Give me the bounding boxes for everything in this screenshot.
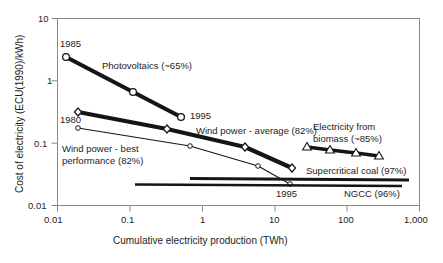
annotation-1985: 1985 (60, 38, 81, 49)
x-tick-label-0.1: 0.1 (121, 214, 134, 225)
label-wind-average: Wind power - average (82%) (196, 125, 317, 137)
chart-figure: 10 1 0.1 0.01 0.01 0.1 1 10 100 1,000 Cu… (0, 0, 443, 263)
biomass-line (307, 147, 379, 156)
series-ngcc (135, 185, 402, 187)
y-axis-ticks (52, 19, 58, 206)
x-tick-label-100: 100 (338, 214, 354, 225)
label-supercritical-coal: Supercritical coal (97%) (306, 165, 406, 177)
label-wind-best-line1: Wind power - best (62, 143, 139, 155)
series-supercritical-coal (190, 179, 409, 181)
x-axis-ticks (58, 206, 420, 212)
x-tick-label-1000: 1,000 (404, 214, 428, 225)
y-axis-title: Cost of electricity (ECU(1990)/kWh) (14, 35, 25, 193)
photovoltaics-marker (178, 114, 185, 121)
ngcc-line (135, 185, 402, 187)
annotation-1995-wind: 1995 (276, 188, 297, 199)
annotation-1980: 1980 (60, 114, 81, 125)
label-ngcc: NGCC (96%) (344, 188, 400, 200)
x-tick-label-10: 10 (269, 214, 280, 225)
series-biomass (303, 143, 384, 160)
supercritical-coal-line (190, 179, 409, 181)
y-tick-label-0.1: 0.1 (34, 138, 47, 149)
photovoltaics-marker (63, 54, 70, 61)
label-biomass-line2: biomass (~85%) (313, 133, 382, 145)
label-biomass-line1: Electricity from (313, 121, 375, 133)
photovoltaics-marker (130, 89, 137, 96)
label-wind-best-line2: performance (82%) (62, 155, 143, 167)
x-tick-label-1: 1 (200, 214, 205, 225)
label-photovoltaics: Photovoltaics (~65%) (102, 60, 192, 72)
y-tick-label-0.01: 0.01 (28, 200, 47, 211)
y-tick-label-1: 1 (47, 75, 52, 86)
x-axis-title: Cumulative electricity production (TWh) (113, 235, 288, 246)
x-tick-label-0.01: 0.01 (44, 214, 63, 225)
annotation-1995-pv: 1995 (190, 110, 211, 121)
y-tick-label-10: 10 (38, 13, 49, 24)
